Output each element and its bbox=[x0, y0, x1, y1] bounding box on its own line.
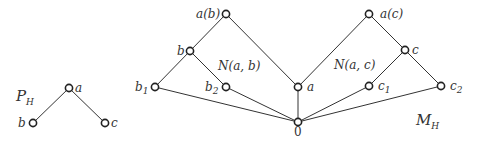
node-c bbox=[101, 119, 108, 126]
edge-b-b1 bbox=[155, 51, 190, 87]
node-label-a: a bbox=[75, 81, 82, 95]
node-label-ab: a(b) bbox=[196, 7, 221, 21]
node-ac bbox=[365, 10, 372, 17]
annotation-label: N(a, b) bbox=[217, 59, 261, 73]
node-label-subscript: 1 bbox=[385, 85, 391, 95]
diagram-title-subscript: H bbox=[25, 97, 34, 107]
edge-a-b bbox=[33, 88, 69, 123]
node-label-c1: c1 bbox=[378, 79, 390, 95]
diagram-m-h: a(b)bb1b2a0a(c)cc1c2N(a, b)N(a, c)MH bbox=[135, 7, 463, 139]
node-label-zero: 0 bbox=[294, 125, 302, 139]
diagram-title: PH bbox=[15, 87, 34, 107]
diagram-title: MH bbox=[415, 111, 439, 131]
node-label-ac: a(c) bbox=[380, 7, 404, 21]
node-b bbox=[29, 119, 36, 126]
node-a bbox=[65, 84, 72, 91]
node-label-b1: b1 bbox=[135, 80, 148, 96]
edge-ac-a bbox=[298, 14, 369, 87]
node-b1 bbox=[151, 83, 158, 90]
node-label-c: c bbox=[111, 116, 118, 130]
node-b bbox=[186, 47, 193, 54]
node-label-a: a bbox=[307, 80, 314, 94]
node-label-b: b bbox=[177, 44, 185, 58]
diagram-title-subscript: H bbox=[430, 121, 439, 131]
diagram-p-h: abcPH bbox=[15, 81, 118, 130]
node-label-c: c bbox=[412, 43, 419, 57]
node-b2 bbox=[222, 83, 229, 90]
edge-b2-zero bbox=[226, 87, 298, 122]
lattice-diagram-canvas: abcPHa(b)bb1b2a0a(c)cc1c2N(a, b)N(a, c)M… bbox=[0, 0, 478, 144]
node-c1 bbox=[365, 82, 372, 89]
node-label-c2: c2 bbox=[450, 79, 463, 95]
edge-ab-a bbox=[226, 14, 298, 87]
node-label-b: b bbox=[18, 116, 26, 130]
node-label-subscript: 2 bbox=[212, 86, 219, 96]
edge-c-c2 bbox=[405, 50, 441, 86]
node-label-subscript: 1 bbox=[143, 86, 149, 96]
node-label-subscript: 2 bbox=[456, 85, 463, 95]
edge-b1-zero bbox=[155, 87, 298, 122]
node-c2 bbox=[437, 82, 444, 89]
node-c bbox=[401, 46, 408, 53]
node-ab bbox=[222, 10, 229, 17]
annotation-label: N(a, c) bbox=[333, 58, 376, 72]
node-label-b2: b2 bbox=[205, 80, 219, 96]
node-a bbox=[294, 83, 301, 90]
